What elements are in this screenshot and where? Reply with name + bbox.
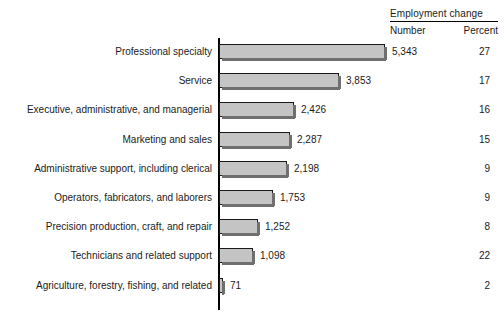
bar-chart: Professional specialty5,34327Service3,85…	[0, 0, 504, 325]
bar-value-label: 2,287	[297, 134, 322, 145]
bar	[219, 161, 287, 178]
bar-fill	[219, 248, 253, 263]
bar-fill	[219, 190, 273, 205]
bar-fill	[219, 132, 290, 147]
bar-value-label: 5,343	[392, 46, 417, 57]
table-row: Administrative support, including cleric…	[0, 159, 504, 181]
bar-value-label: 71	[230, 280, 241, 291]
category-label: Agriculture, forestry, fishing, and rela…	[0, 279, 212, 292]
table-row: Operators, fabricators, and laborers1,75…	[0, 188, 504, 210]
bar-value-label: 2,426	[301, 104, 326, 115]
table-row: Professional specialty5,34327	[0, 42, 504, 64]
category-label: Operators, fabricators, and laborers	[0, 191, 212, 204]
bar	[219, 190, 273, 207]
bar-fill	[219, 73, 339, 88]
percent-value-label: 8	[430, 221, 490, 232]
percent-value-label: 15	[430, 134, 490, 145]
table-row: Agriculture, forestry, fishing, and rela…	[0, 276, 504, 298]
bar	[219, 102, 294, 119]
bar	[219, 73, 339, 90]
table-row: Precision production, craft, and repair1…	[0, 217, 504, 239]
bar-fill	[219, 102, 294, 117]
bar	[219, 248, 253, 265]
bar-value-label: 1,098	[260, 250, 285, 261]
bar-fill	[219, 44, 385, 59]
bar	[219, 219, 258, 236]
percent-value-label: 16	[430, 104, 490, 115]
table-row: Technicians and related support1,09822	[0, 246, 504, 268]
category-label: Administrative support, including cleric…	[0, 162, 212, 175]
table-row: Marketing and sales2,28715	[0, 130, 504, 152]
category-label: Precision production, craft, and repair	[0, 220, 212, 233]
bar-fill	[219, 161, 287, 176]
category-label: Marketing and sales	[0, 133, 212, 146]
bar	[219, 44, 385, 61]
percent-value-label: 9	[430, 163, 490, 174]
percent-value-label: 9	[430, 192, 490, 203]
category-label: Technicians and related support	[0, 249, 212, 262]
bar-value-label: 1,753	[280, 192, 305, 203]
percent-value-label: 27	[430, 46, 490, 57]
chart-page: Employment change Number Percent Profess…	[0, 0, 504, 325]
bar	[219, 132, 290, 149]
table-row: Service3,85317	[0, 71, 504, 93]
table-row: Executive, administrative, and manageria…	[0, 100, 504, 122]
bar-fill	[219, 278, 223, 293]
bar-fill	[219, 219, 258, 234]
percent-value-label: 17	[430, 75, 490, 86]
bar-value-label: 2,198	[294, 163, 319, 174]
bar-value-label: 3,853	[346, 75, 371, 86]
percent-value-label: 22	[430, 250, 490, 261]
bar	[219, 278, 223, 295]
bar-value-label: 1,252	[265, 221, 290, 232]
category-label: Executive, administrative, and manageria…	[0, 103, 212, 116]
category-label: Professional specialty	[0, 45, 212, 58]
percent-value-label: 2	[430, 280, 490, 291]
category-label: Service	[0, 74, 212, 87]
